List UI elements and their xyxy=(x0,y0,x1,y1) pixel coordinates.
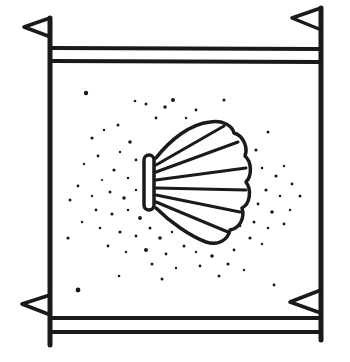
banner-drawing xyxy=(0,0,350,362)
stipple-texture xyxy=(66,91,301,293)
flag-top-right-icon xyxy=(292,8,321,29)
banner-illustration xyxy=(0,0,350,362)
flag-top-left-icon xyxy=(24,18,50,36)
flag-bottom-left-icon xyxy=(22,295,50,314)
flag-bottom-right-icon xyxy=(290,290,321,312)
top-rail xyxy=(52,48,320,62)
bottom-rail xyxy=(52,318,320,332)
scallop-shell-icon xyxy=(144,122,250,244)
